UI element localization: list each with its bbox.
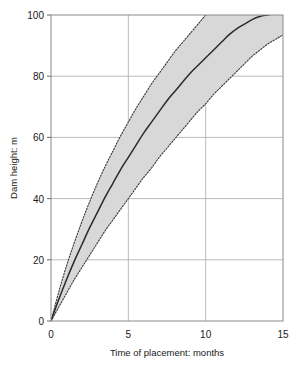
chart-canvas: 100 80 60 40 20 0 0 5 10 15 Time of plac…	[0, 0, 305, 365]
x-axis-title: Time of placement: months	[110, 347, 224, 358]
x-tick-label-0: 0	[48, 329, 54, 340]
y-axis-title: Dam height: m	[8, 137, 19, 199]
x-tick-label-10: 10	[200, 329, 212, 340]
dam-height-chart-figure: 100 80 60 40 20 0 0 5 10 15 Time of plac…	[0, 0, 305, 365]
x-tick-label-15: 15	[277, 329, 289, 340]
y-tick-label-40: 40	[33, 194, 45, 205]
y-tick-label-60: 60	[33, 132, 45, 143]
y-tick-marks	[47, 15, 51, 321]
y-tick-label-80: 80	[33, 71, 45, 82]
plot-background	[51, 15, 283, 321]
y-tick-label-100: 100	[27, 10, 44, 21]
x-tick-label-5: 5	[126, 329, 132, 340]
y-tick-label-0: 0	[38, 316, 44, 327]
y-tick-label-20: 20	[33, 255, 45, 266]
